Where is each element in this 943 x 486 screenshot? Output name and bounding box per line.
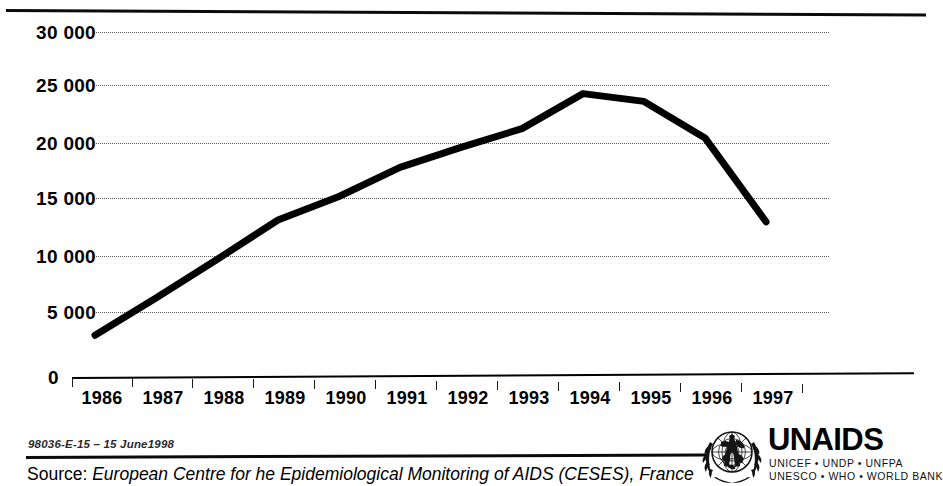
x-axis-tick (436, 381, 437, 390)
x-axis-tick (741, 383, 742, 392)
un-globe-laurel-red-ribbon-emblem (700, 422, 764, 486)
x-axis-tick (680, 383, 681, 392)
x-axis-tick (558, 382, 559, 391)
x-axis-label-1990: 1990 (326, 389, 367, 407)
footer-rule (26, 453, 706, 459)
line-chart: 30 000 25 000 20 000 15 000 10 000 5 000… (0, 0, 932, 420)
x-axis-tick (802, 384, 803, 393)
x-axis-tick (314, 380, 315, 389)
x-axis-tick (192, 379, 193, 388)
x-axis-tick (375, 380, 376, 389)
unaids-logo: UNAIDS UNICEF • UNDP • UNFPA UNESCO • WH… (700, 422, 932, 486)
x-axis-label-1997: 1997 (753, 389, 794, 407)
document-code: 98036-E-15 – 15 June1998 (28, 438, 174, 450)
x-axis-label-1986: 1986 (82, 389, 123, 407)
x-axis-label-1995: 1995 (631, 389, 672, 407)
x-axis-label-1996: 1996 (692, 389, 733, 407)
data-series-line (0, 0, 932, 420)
source-citation: Source: European Centre for he Epidemiol… (27, 464, 694, 485)
unaids-wordmark: UNAIDS (768, 424, 883, 455)
source-text: European Centre for he Epidemiological M… (92, 464, 693, 484)
x-axis-label-1989: 1989 (265, 389, 306, 407)
x-axis-tick (72, 378, 73, 387)
unaids-partners-line-1: UNICEF • UNDP • UNFPA (769, 458, 903, 469)
unaids-partners-line-2: UNESCO • WHO • WORLD BANK (769, 471, 943, 482)
x-axis-tick (132, 378, 133, 387)
x-axis-label-1992: 1992 (448, 389, 489, 407)
x-axis-tick (497, 381, 498, 390)
footer: 98036-E-15 – 15 June1998 Source: Europea… (0, 420, 932, 486)
x-axis-label-1988: 1988 (204, 389, 245, 407)
source-label: Source: (27, 464, 87, 484)
x-axis-label-1991: 1991 (387, 389, 428, 407)
x-axis-label-1987: 1987 (143, 389, 184, 407)
x-axis-tick (253, 379, 254, 388)
x-axis-label-1993: 1993 (509, 389, 550, 407)
x-axis-tick (619, 382, 620, 391)
x-axis-label-1994: 1994 (570, 389, 611, 407)
